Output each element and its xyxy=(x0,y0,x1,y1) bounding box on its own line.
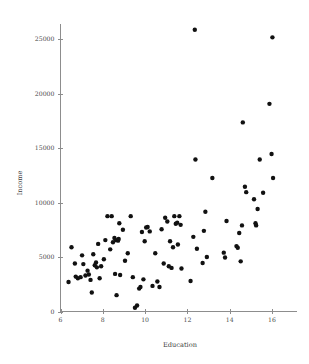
data-point xyxy=(239,259,243,263)
data-point xyxy=(95,265,99,269)
data-point xyxy=(258,157,262,161)
data-point xyxy=(200,261,204,265)
data-point xyxy=(129,214,133,218)
data-point xyxy=(178,223,182,227)
data-point xyxy=(162,261,166,265)
data-point xyxy=(142,239,146,243)
x-tick-label: 12 xyxy=(183,316,191,323)
scatter-plot-figure: 0500010000150002000025000 6810121416 Edu… xyxy=(0,0,309,364)
data-point xyxy=(252,197,256,201)
data-point xyxy=(159,227,163,231)
data-point xyxy=(168,239,172,243)
x-tick-label: 6 xyxy=(59,316,63,323)
x-axis-title: Education xyxy=(163,341,198,349)
data-point xyxy=(131,275,135,279)
data-point xyxy=(69,245,73,249)
data-point xyxy=(145,225,149,229)
x-tick-label: 14 xyxy=(226,316,234,323)
y-tick-label: 10000 xyxy=(35,199,55,206)
data-point xyxy=(105,214,109,218)
data-point xyxy=(116,237,120,241)
data-point xyxy=(210,176,214,180)
data-point xyxy=(118,273,122,277)
data-point xyxy=(121,228,125,232)
data-point xyxy=(244,190,248,194)
data-point xyxy=(141,277,145,281)
data-point xyxy=(202,229,206,233)
data-point xyxy=(224,219,228,223)
data-point xyxy=(270,35,274,39)
data-point xyxy=(236,246,240,250)
data-point xyxy=(157,285,161,289)
data-point xyxy=(255,207,259,211)
data-point xyxy=(195,247,199,251)
data-point xyxy=(172,214,176,218)
data-points-group xyxy=(66,28,275,310)
data-point xyxy=(114,293,118,297)
data-point xyxy=(169,266,173,270)
data-point xyxy=(90,290,94,294)
y-tick-label: 0 xyxy=(51,308,55,315)
data-point xyxy=(109,214,113,218)
data-point xyxy=(88,278,92,282)
data-point xyxy=(97,276,101,280)
data-point xyxy=(78,275,82,279)
data-point xyxy=(193,28,197,32)
data-point xyxy=(96,242,100,246)
y-tick-label: 25000 xyxy=(35,35,55,42)
data-point xyxy=(99,264,103,268)
data-point xyxy=(123,259,127,263)
data-point xyxy=(176,242,180,246)
data-point xyxy=(117,221,121,225)
data-point xyxy=(223,255,227,259)
data-point xyxy=(269,152,273,156)
data-point xyxy=(108,247,112,251)
data-point xyxy=(155,279,159,283)
y-axis-title: Income xyxy=(16,171,24,196)
data-point xyxy=(148,229,152,233)
data-point xyxy=(237,231,241,235)
y-axis-ticks: 0500010000150002000025000 xyxy=(35,35,63,315)
data-point xyxy=(271,176,275,180)
data-point xyxy=(153,251,157,255)
data-point xyxy=(191,235,195,239)
data-point xyxy=(91,252,95,256)
data-point xyxy=(66,280,70,284)
data-point xyxy=(193,157,197,161)
data-point xyxy=(243,184,247,188)
data-point xyxy=(85,268,89,272)
data-point xyxy=(241,120,245,124)
data-point xyxy=(165,219,169,223)
data-point xyxy=(222,250,226,254)
data-point xyxy=(177,214,181,218)
data-point xyxy=(203,210,207,214)
data-point xyxy=(94,260,98,264)
data-point xyxy=(254,223,258,227)
x-tick-label: 16 xyxy=(268,316,276,323)
data-point xyxy=(126,251,130,255)
data-point xyxy=(102,257,106,261)
y-tick-label: 20000 xyxy=(35,90,55,97)
data-point xyxy=(138,285,142,289)
data-point xyxy=(73,261,77,265)
y-tick-label: 15000 xyxy=(35,144,55,151)
x-tick-label: 10 xyxy=(141,316,149,323)
data-point xyxy=(140,230,144,234)
data-point xyxy=(205,255,209,259)
data-point xyxy=(87,272,91,276)
data-point xyxy=(81,262,85,266)
data-point xyxy=(163,216,167,220)
data-point xyxy=(103,238,107,242)
data-point xyxy=(261,190,265,194)
data-point xyxy=(267,102,271,106)
data-point xyxy=(188,279,192,283)
data-point xyxy=(135,303,139,307)
data-point xyxy=(179,266,183,270)
y-tick-label: 5000 xyxy=(39,253,55,260)
x-tick-label: 8 xyxy=(101,316,105,323)
plot-canvas: 0500010000150002000025000 6810121416 Edu… xyxy=(0,0,309,364)
data-point xyxy=(80,253,84,257)
data-point xyxy=(150,284,154,288)
data-point xyxy=(113,272,117,276)
data-point xyxy=(171,245,175,249)
